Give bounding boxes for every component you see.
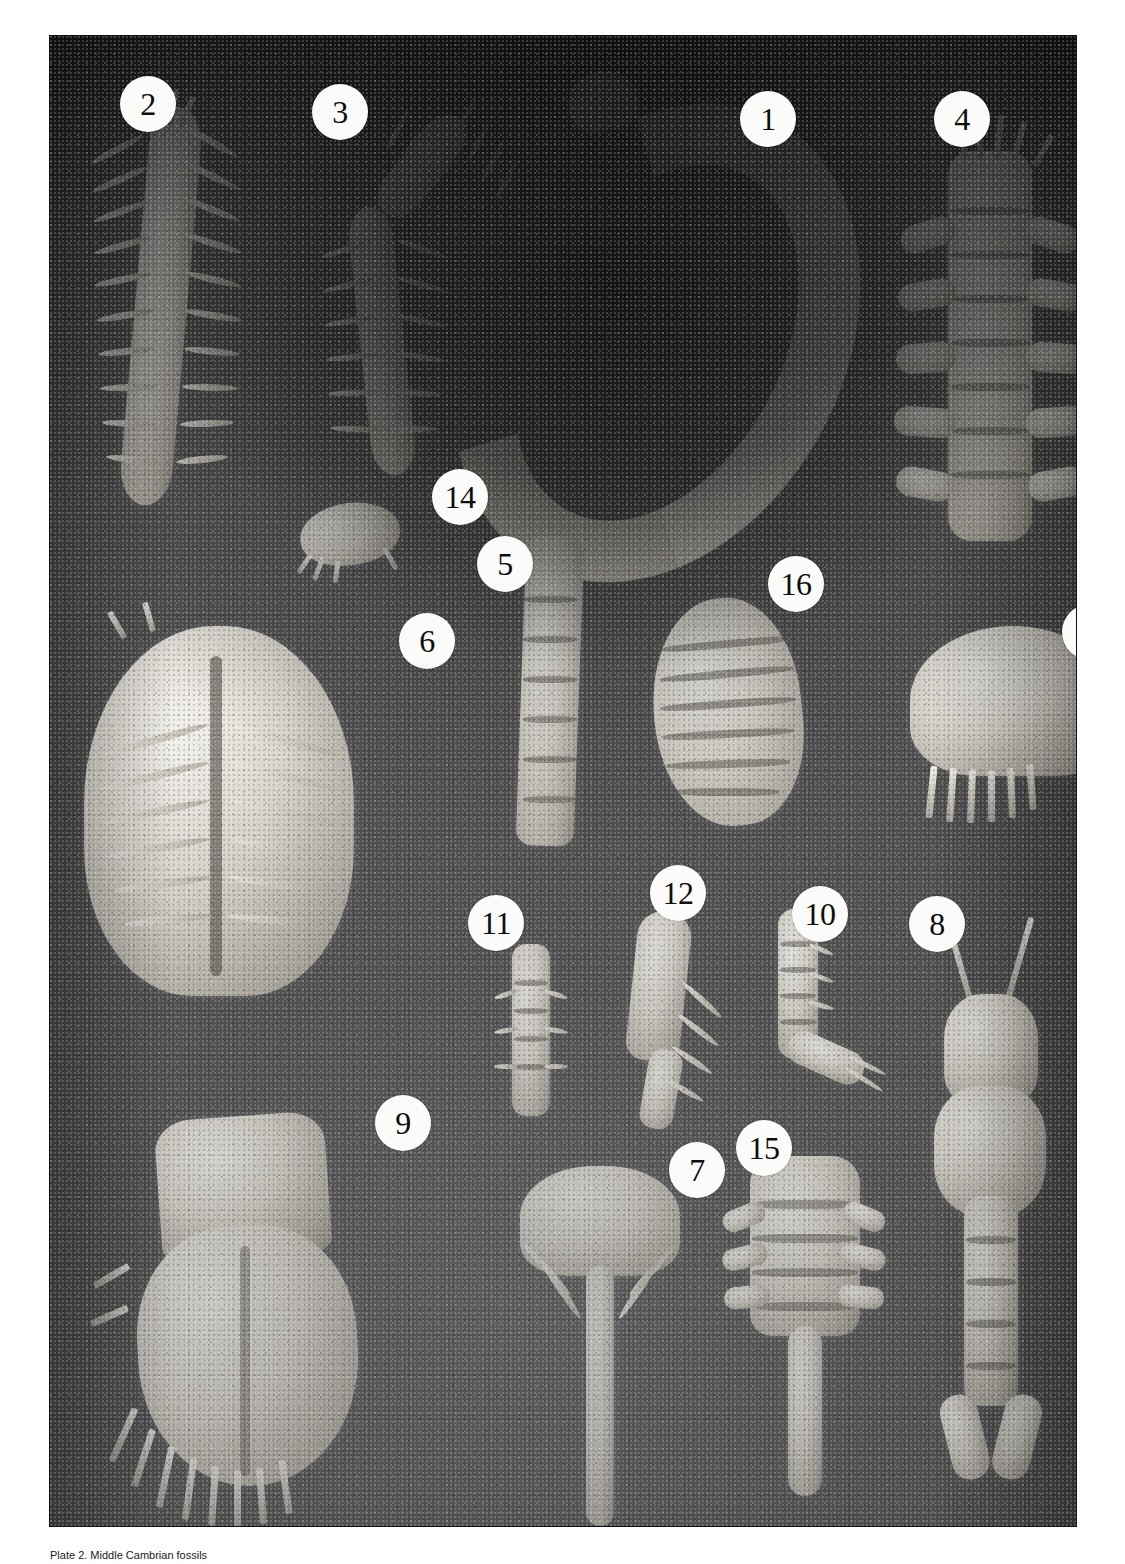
specimen-12-shrimp-like-arthropod (610, 901, 740, 1151)
callout-12[interactable]: 12 (650, 865, 706, 921)
callout-1[interactable]: 1 (740, 91, 796, 147)
callout-5[interactable]: 5 (477, 536, 533, 592)
specimen-13-carapace (900, 616, 1076, 836)
callout-9[interactable]: 9 (375, 1095, 431, 1151)
plate-vignette-top (50, 36, 1076, 1526)
fossil-plate-photograph: 23141451661311121089715 (50, 36, 1076, 1526)
plate-film-grain (50, 36, 1076, 1526)
plate-vertical-gradient (50, 36, 1076, 1526)
specimen-14-bivalved-arthropod (290, 491, 420, 586)
specimen-11-small-arthropod (490, 936, 570, 1126)
specimen-7-marrella-like-arthropod (490, 1156, 710, 1526)
plate-halftone-speckle (50, 36, 1076, 1526)
callout-16[interactable]: 16 (768, 556, 824, 612)
callout-14[interactable]: 14 (432, 469, 488, 525)
callout-10[interactable]: 10 (792, 886, 848, 942)
specimen-8-antennaed-arthropod (890, 906, 1076, 1506)
plate-vignette-bottom (50, 36, 1076, 1526)
plate-edge-shading (50, 36, 1076, 1526)
specimen-2-polychaete-worm (80, 76, 270, 526)
specimen-15-trilobite-like-arthropod (710, 1146, 900, 1506)
plate-caption: Plate 2. Middle Cambrian fossils (50, 1549, 1050, 1562)
specimen-3-polychaete-worm (280, 96, 530, 496)
specimen-9-bivalved-arthropod (90, 1106, 420, 1526)
callout-15[interactable]: 15 (736, 1120, 792, 1176)
callout-7[interactable]: 7 (669, 1142, 725, 1198)
specimen-1-priapulid-worm (450, 71, 770, 521)
callout-6[interactable]: 6 (399, 613, 455, 669)
callout-8[interactable]: 8 (909, 896, 965, 952)
callout-13[interactable]: 13 (1062, 604, 1076, 660)
specimen-6-echinoderm (60, 596, 390, 1026)
callout-2[interactable]: 2 (120, 76, 176, 132)
specimen-16-segmented-body (640, 586, 820, 836)
callout-11[interactable]: 11 (468, 895, 524, 951)
callout-4[interactable]: 4 (934, 91, 990, 147)
specimen-4-arthropod (880, 111, 1076, 581)
callout-3[interactable]: 3 (312, 84, 368, 140)
